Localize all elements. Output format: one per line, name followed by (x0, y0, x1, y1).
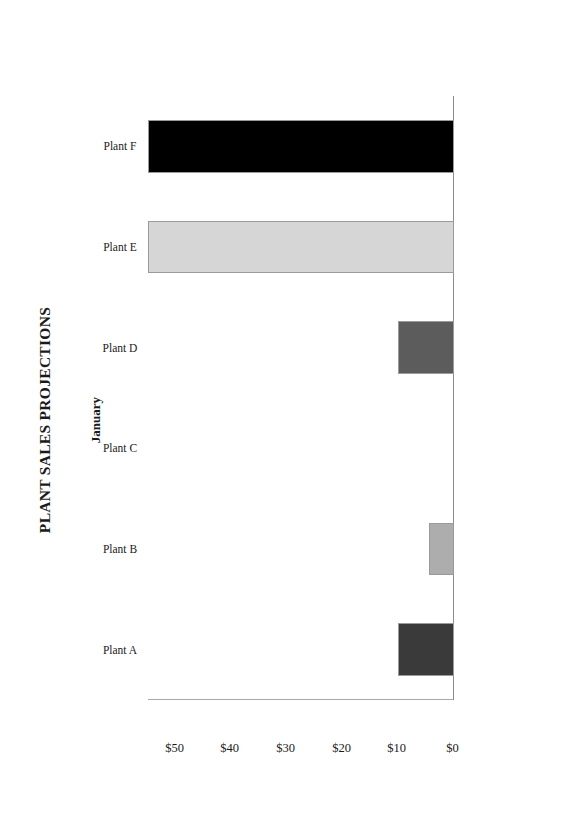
value-tick-label: $10 (366, 741, 426, 756)
category-tick-label: Plant F (80, 140, 160, 152)
value-tick-label: $0 (422, 741, 482, 756)
category-tick-label: Plant A (80, 644, 160, 656)
value-tick-label: $20 (311, 741, 371, 756)
category-axis-tick-labels: Plant APlant BPlant CPlant DPlant EPlant… (106, 96, 146, 700)
value-tick-label: $50 (144, 741, 204, 756)
category-tick-label: Plant C (80, 442, 160, 454)
category-tick-label: Plant E (80, 241, 160, 253)
rotated-chart-canvas: PLANT SALES PROJECTIONS January $0$10$20… (30, 40, 550, 800)
category-tick-label: Plant D (80, 342, 160, 354)
chart-title: PLANT SALES PROJECTIONS (36, 40, 54, 800)
chart-subtitle: January (88, 40, 104, 800)
value-tick-label: $30 (255, 741, 315, 756)
category-tick-label: Plant B (80, 543, 160, 555)
value-tick-label: $40 (199, 741, 259, 756)
value-axis-tick-labels: $0$10$20$30$40$50 (148, 96, 454, 700)
chart-page: PLANT SALES PROJECTIONS January $0$10$20… (0, 0, 579, 840)
